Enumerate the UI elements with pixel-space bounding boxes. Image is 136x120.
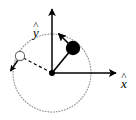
- y-axis-hat-accent: ^: [33, 20, 39, 31]
- figure-canvas: [0, 0, 136, 120]
- physics-figure: ^ y ^ x: [0, 0, 136, 120]
- current-position-point: [66, 41, 80, 55]
- x-axis-hat-accent: ^: [121, 71, 127, 82]
- x-axis-label: ^ x: [121, 77, 127, 90]
- position-vector-current: [52, 50, 71, 73]
- velocity-vector-previous: [11, 60, 19, 71]
- y-axis-label: ^ y: [33, 26, 39, 39]
- previous-position-point: [15, 51, 24, 60]
- origin-point: [49, 70, 55, 76]
- position-vector-previous: [22, 57, 53, 73]
